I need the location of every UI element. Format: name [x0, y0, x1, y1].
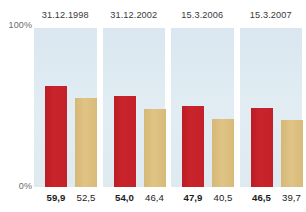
bar-tan [212, 119, 234, 187]
value-label-tan: 52,5 [69, 192, 103, 203]
bar-group [34, 28, 97, 187]
value-label-red: 46,5 [245, 192, 279, 203]
bar-red [182, 106, 204, 187]
value-group: 46,5 39,7 [240, 192, 303, 208]
bar-red [114, 96, 136, 187]
bar-group [103, 28, 166, 187]
bar-tan [144, 109, 166, 187]
bar-red [45, 86, 67, 187]
panel-title: 15.3.2007 [240, 10, 303, 20]
panel-group: 31.12.1998 59,9 52,5 31.12.2002 54,0 46,… [34, 10, 302, 208]
bar-tan [75, 98, 97, 187]
value-label-tan: 46,4 [138, 192, 172, 203]
value-group: 54,0 46,4 [103, 192, 166, 208]
bar-red [251, 108, 273, 187]
chart-panel: 15.3.2006 47,9 40,5 [171, 10, 234, 208]
chart-panel: 31.12.2002 54,0 46,4 [103, 10, 166, 208]
value-label-tan: 40,5 [206, 192, 240, 203]
bar-chart: 100% 0% 31.12.1998 59,9 52,5 31.12.2002 … [0, 0, 305, 212]
y-axis-label-100: 100% [2, 20, 32, 30]
value-group: 47,9 40,5 [171, 192, 234, 208]
panel-title: 31.12.2002 [103, 10, 166, 20]
bar-tan [281, 120, 303, 187]
bar-group [171, 28, 234, 187]
chart-panel: 31.12.1998 59,9 52,5 [34, 10, 97, 208]
value-label-red: 47,9 [176, 192, 210, 203]
value-label-red: 59,9 [39, 192, 73, 203]
bar-group [240, 28, 303, 187]
chart-panel: 15.3.2007 46,5 39,7 [240, 10, 303, 208]
panel-title: 15.3.2006 [171, 10, 234, 20]
value-group: 59,9 52,5 [34, 192, 97, 208]
panel-title: 31.12.1998 [34, 10, 97, 20]
value-label-tan: 39,7 [275, 192, 306, 203]
y-axis-label-0: 0% [2, 181, 32, 191]
value-label-red: 54,0 [108, 192, 142, 203]
